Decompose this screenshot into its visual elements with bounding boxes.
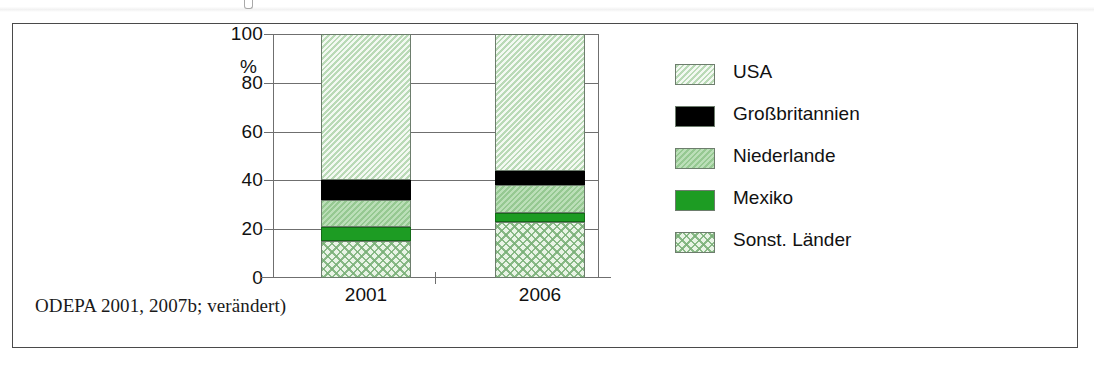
y-tick-80: 80 — [241, 72, 263, 94]
plot-right-edge — [598, 34, 599, 278]
x-tick-2001: 2001 — [306, 284, 426, 306]
legend-swatch-sonstige-laender-icon — [675, 232, 715, 253]
y-tick-mark-100 — [264, 34, 273, 35]
bar-segment-usa[interactable] — [321, 34, 411, 180]
legend-swatch-niederlande-icon — [675, 148, 715, 169]
x-axis-mid-tick — [435, 272, 436, 284]
legend-swatch-usa-icon — [675, 64, 715, 85]
x-tick-2006: 2006 — [480, 284, 600, 306]
bar-segment-other[interactable] — [321, 241, 411, 278]
y-tick-mark-40 — [264, 180, 273, 181]
bar-2006[interactable] — [495, 34, 585, 278]
bar-segment-gb[interactable] — [495, 171, 585, 186]
bar-segment-mx[interactable] — [495, 213, 585, 222]
bar-segment-mx[interactable] — [321, 227, 411, 242]
plot-area: 2001 2006 — [273, 34, 599, 278]
bar-segment-gb[interactable] — [321, 180, 411, 200]
source-note: ODEPA 2001, 2007b; verändert) — [35, 295, 286, 317]
bar-segment-nl[interactable] — [495, 185, 585, 213]
bar-segment-nl[interactable] — [321, 200, 411, 227]
scan-artifact — [0, 0, 1094, 12]
bar-2001[interactable] — [321, 34, 411, 278]
legend-label-mexiko: Mexiko — [733, 187, 793, 209]
bar-segment-other[interactable] — [495, 222, 585, 278]
y-tick-40: 40 — [241, 169, 263, 191]
y-tick-20: 20 — [241, 218, 263, 240]
y-axis-line — [273, 34, 274, 278]
y-tick-mark-60 — [264, 132, 273, 133]
y-axis-labels: 100 % 80 60 40 20 0 — [203, 34, 263, 278]
legend-label-sonstige-laender: Sonst. Länder — [733, 229, 851, 251]
y-tick-mark-20 — [264, 229, 273, 230]
y-tick-mark-0 — [264, 277, 273, 278]
scan-smudge — [244, 0, 253, 9]
y-tick-60: 60 — [241, 121, 263, 143]
legend-label-niederlande: Niederlande — [733, 145, 835, 167]
y-tick-mark-80 — [264, 83, 273, 84]
legend-label-usa: USA — [733, 61, 772, 83]
bar-segment-usa[interactable] — [495, 34, 585, 171]
legend-swatch-grossbritannien-icon — [675, 106, 715, 127]
y-tick-100: 100 — [231, 23, 263, 45]
legend-label-grossbritannien: Großbritannien — [733, 103, 860, 125]
legend-swatch-mexiko-icon — [675, 190, 715, 211]
figure-frame: 100 % 80 60 40 20 0 2 — [12, 23, 1078, 348]
